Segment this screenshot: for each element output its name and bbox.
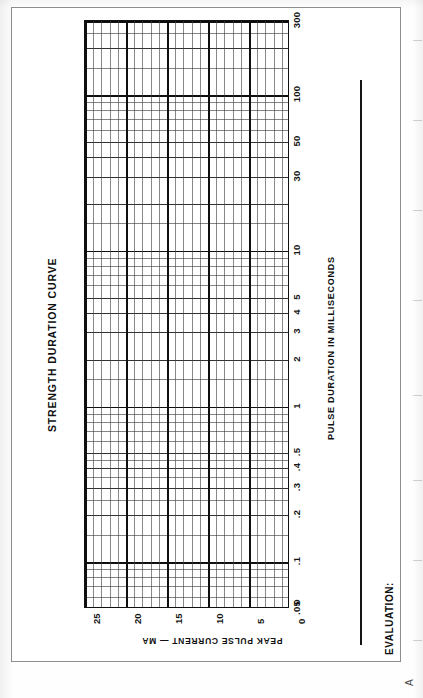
y-axis-title: PEAK PULSE CURRENT — MA <box>126 636 298 646</box>
scan-artifact-mark <box>413 120 422 121</box>
x-axis-tick-label: 5 <box>291 284 303 310</box>
y-axis-tick-label: 5 <box>255 600 267 624</box>
y-axis-tick-label: 25 <box>91 600 103 624</box>
chart-plot-area[interactable] <box>84 20 289 608</box>
gridline <box>183 21 184 607</box>
scan-artifact-mark <box>413 300 422 301</box>
scan-artifact-mark <box>413 40 422 41</box>
x-axis-tick-label: 300 <box>291 7 303 33</box>
scanned-page: .05.1.2.3.4.512345103050100300 051015202… <box>0 0 423 698</box>
x-axis-tick-label: 50 <box>291 128 303 154</box>
gridline <box>134 21 135 607</box>
gridline <box>167 21 169 607</box>
gridline <box>192 21 193 607</box>
gridline <box>93 21 94 607</box>
y-axis-tick-label: 15 <box>173 600 185 624</box>
gridline <box>265 21 266 607</box>
gridline <box>208 21 210 607</box>
gridline <box>257 21 258 607</box>
figure-marker-label: A <box>404 679 415 686</box>
scan-margin-artifact <box>412 0 423 698</box>
x-axis-tick-label: 10 <box>291 237 303 263</box>
gridline <box>200 21 201 607</box>
gridline <box>142 21 143 607</box>
evaluation-label: EVALUATION: <box>384 582 395 655</box>
gridline <box>282 21 283 607</box>
gridline <box>216 21 217 607</box>
x-axis-tick-label: 1 <box>291 393 303 419</box>
y-axis-tick-label: 10 <box>214 600 226 624</box>
gridline <box>159 21 160 607</box>
gridline <box>110 21 111 607</box>
gridline <box>249 21 251 607</box>
gridline <box>151 21 152 607</box>
gridline <box>101 21 102 607</box>
x-axis-tick-label: .5 <box>291 439 303 465</box>
gridline <box>85 21 87 607</box>
x-axis-tick-label: .2 <box>291 501 303 527</box>
gridline <box>233 21 234 607</box>
gridline <box>118 21 119 607</box>
gridline <box>241 21 242 607</box>
y-axis-tick-label: 20 <box>132 600 144 624</box>
scan-artifact-mark <box>413 560 422 561</box>
gridline <box>274 21 275 607</box>
x-axis-title: PULSE DURATION IN MILLISECONDS <box>326 256 336 440</box>
x-axis-tick-label: 2 <box>291 346 303 372</box>
evaluation-write-in-line[interactable] <box>360 80 362 645</box>
scan-artifact-mark <box>413 640 422 641</box>
x-axis-tick-label: .1 <box>291 548 303 574</box>
scan-artifact-mark <box>413 480 422 481</box>
gridline <box>224 21 225 607</box>
gridline <box>175 21 176 607</box>
chart-title: STRENGTH DURATION CURVE <box>46 258 58 432</box>
x-axis-tick-label: 30 <box>291 163 303 189</box>
scan-artifact-mark <box>413 210 422 211</box>
x-axis-tick-label: 100 <box>291 81 303 107</box>
scan-artifact-mark <box>413 395 422 396</box>
origin-zero-label: 0 <box>291 599 302 604</box>
gridline <box>126 21 128 607</box>
